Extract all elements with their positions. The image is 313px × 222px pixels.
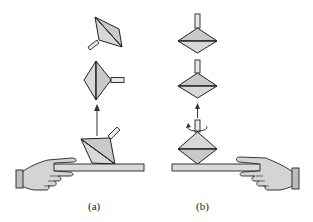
top-a-on-board — [81, 127, 120, 164]
top-b-upper — [178, 14, 217, 53]
top-a-upper — [88, 17, 122, 50]
top-b-middle — [178, 60, 217, 98]
arrow-up-b — [195, 103, 200, 118]
panel-a — [16, 17, 144, 190]
top-b-on-board — [178, 120, 217, 164]
hand-a — [16, 158, 76, 190]
hand-b — [236, 157, 299, 190]
board-b — [172, 164, 264, 171]
panel-label-b: (b) — [196, 200, 209, 212]
board-a — [53, 164, 144, 171]
arrow-up-a — [94, 104, 100, 136]
panel-b — [172, 14, 299, 190]
top-a-middle — [84, 61, 124, 100]
panel-label-a: (a) — [88, 200, 100, 212]
spinning-top-diagram — [0, 0, 313, 222]
